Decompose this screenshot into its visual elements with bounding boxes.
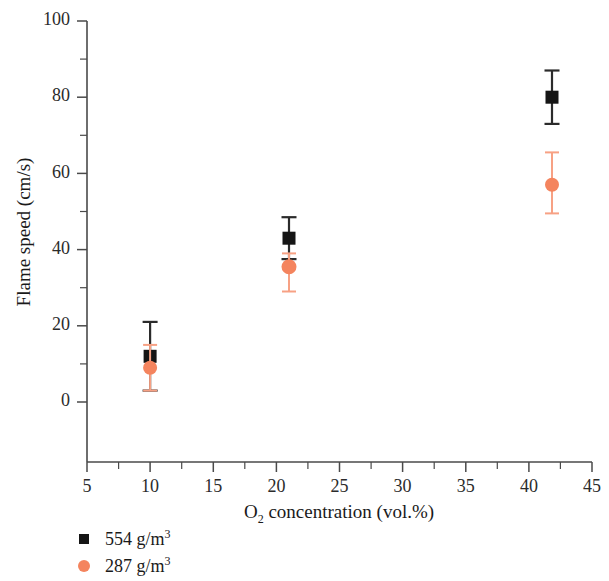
flame-speed-vs-o2-concentration-chart: 100 80 60 40 20 0 5 10 15 20 25 30 35 40… bbox=[0, 0, 609, 581]
x-ticklabel-5: 5 bbox=[83, 476, 92, 496]
x-axis-title-base: O bbox=[244, 501, 258, 522]
marker-square-554-x42 bbox=[546, 91, 559, 104]
legend-label-554-superscript: 3 bbox=[165, 527, 171, 541]
x-ticklabel-25: 25 bbox=[331, 476, 349, 496]
y-ticklabel-20: 20 bbox=[52, 314, 70, 334]
y-ticklabel-0: 0 bbox=[61, 390, 70, 410]
legend-label-554: 554 g/m3 bbox=[105, 527, 171, 549]
marker-square-554-x21 bbox=[283, 232, 296, 245]
y-ticklabel-40: 40 bbox=[52, 238, 70, 258]
x-axis-title-rest: concentration (vol.%) bbox=[264, 501, 434, 523]
legend-label-287: 287 g/m3 bbox=[105, 554, 171, 576]
legend-marker-square-icon bbox=[79, 534, 89, 544]
legend-label-287-superscript: 3 bbox=[165, 554, 171, 568]
y-ticklabel-100: 100 bbox=[43, 9, 70, 29]
y-ticklabel-60: 60 bbox=[52, 162, 70, 182]
x-ticklabel-10: 10 bbox=[141, 476, 159, 496]
x-ticklabel-45: 45 bbox=[583, 476, 601, 496]
x-ticklabel-30: 30 bbox=[394, 476, 412, 496]
x-ticklabel-40: 40 bbox=[520, 476, 538, 496]
legend-marker-circle-icon bbox=[78, 560, 90, 572]
x-ticklabel-15: 15 bbox=[204, 476, 222, 496]
x-ticklabel-20: 20 bbox=[267, 476, 285, 496]
marker-circle-287-x21 bbox=[282, 259, 297, 274]
x-ticklabel-35: 35 bbox=[457, 476, 475, 496]
legend-label-554-base: 554 g/m bbox=[105, 529, 165, 549]
y-ticklabel-80: 80 bbox=[52, 85, 70, 105]
marker-circle-287-x10 bbox=[143, 361, 157, 375]
y-axis-title: Flame speed (cm/s) bbox=[13, 158, 35, 307]
marker-circle-287-x42 bbox=[545, 178, 559, 192]
legend-label-287-base: 287 g/m bbox=[105, 556, 165, 576]
